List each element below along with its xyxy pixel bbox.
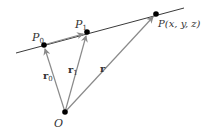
label-origin-O: O <box>54 117 63 130</box>
label-P0: P0 <box>31 31 44 45</box>
label-r0: r0 <box>43 70 53 83</box>
label-r1: r1 <box>68 64 78 77</box>
label-P-xyz: P(x, y, z) <box>157 18 201 29</box>
label-P1: P1 <box>74 18 87 32</box>
point-P-dot <box>153 11 159 17</box>
line-L <box>16 8 184 53</box>
vector-line-diagram: P0 P1 P(x, y, z) O r0 r1 r <box>0 0 212 133</box>
origin-O-dot <box>62 109 68 115</box>
direction-vector-arrow <box>47 34 83 44</box>
label-r: r <box>100 63 106 74</box>
